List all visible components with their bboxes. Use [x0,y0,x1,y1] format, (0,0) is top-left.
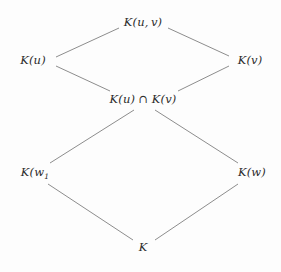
node-label-k-u: K(u) [20,55,46,67]
node-label-k-u-intersect-k-v: K(u) ∩ K(v) [110,94,177,106]
lattice-diagram: K(u, v) K(u) K(v) K(u) ∩ K(v) K(w1 K(w) … [0,0,281,272]
edge-ku-top [56,28,119,57]
edge-meet-kw1 [50,110,134,163]
edge-kw-bottom [155,184,238,240]
edge-top-kv [168,28,229,56]
node-label-k-w: K(w) [238,167,266,179]
node-label-k-u-v: K(u, v) [124,17,162,29]
node-label-k: K [139,242,148,254]
edge-ku-meet [56,66,110,91]
edge-meet-kw [155,110,238,163]
edge-kw1-bottom [48,184,133,240]
diagram-edge-layer [0,0,281,272]
node-label-k-w1: K(w1 [21,167,49,179]
edge-kv-meet [178,66,229,91]
node-label-k-v: K(v) [238,55,263,67]
